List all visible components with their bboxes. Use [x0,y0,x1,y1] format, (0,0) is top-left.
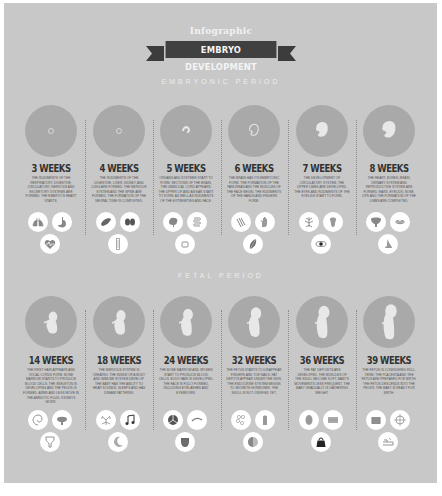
hand-icon [255,212,275,232]
embryo-circle [228,296,280,348]
week-label: 24 WEEKS [158,355,214,366]
embryo-circle [296,296,348,348]
skull-icon [243,432,263,452]
column-divider [153,120,154,235]
bladder-icon [366,212,386,232]
pancreas-icon [243,234,263,254]
weight-icon [311,432,331,452]
molecule-icon [231,410,251,430]
moon-icon [108,432,128,452]
week-label: 6 WEEKS [226,163,282,174]
intestine-icon [187,212,207,232]
heart-pulse-icon [40,234,60,254]
embryo-circle [25,105,77,157]
week-description: The fetus starts to disappear fingers an… [226,368,282,396]
ear-icon [28,410,48,430]
week-description: The rudiments of the digestive, liver, k… [91,176,147,204]
section-title-fetal: FETAL PERIOD [0,272,442,279]
lungs-tree-icon [52,410,72,430]
embryo-circle [93,105,145,157]
week-label: 18 WEEKS [91,355,147,366]
week-description: The brain has its embryonic form. The fo… [226,176,282,204]
embryo-circle [93,296,145,348]
finger-icon [255,410,275,430]
embryo-circle [25,296,77,348]
eye-icon [311,234,331,254]
fetus-icon [296,296,348,348]
eyebrow-icon [187,410,207,430]
ribbon-tail-left [146,46,164,61]
column-divider [288,310,289,430]
kidneys-icon [120,212,140,232]
bed-icon [378,432,398,452]
fetus-icon [363,296,415,348]
embryo-icon [363,105,415,157]
column-divider [85,310,86,430]
column-divider [288,120,289,235]
spine-icon [108,234,128,254]
fetus-icon [25,296,77,348]
title-ribbon: EMBRYO DEVELOPMENT [146,41,296,61]
ribbon-tail-right [278,46,296,61]
mouth-icon [175,234,195,254]
skin-icon [323,410,343,430]
embryo-icon [296,105,348,157]
column-divider [153,310,154,430]
week-description: The nervous system is created. The insid… [91,368,147,396]
pretitle: Infographic [0,26,442,36]
week-label: 8 WEEKS [361,163,417,174]
muscles-icon [231,212,251,232]
placenta-icon [366,410,386,430]
embryo-dot [48,128,54,134]
week-label: 5 WEEKS [158,163,214,174]
embryo-dot [116,128,122,134]
embryo-circle [160,296,212,348]
week-description: Organs and systems start to form. Sectio… [158,176,214,204]
spleen-icon [163,410,183,430]
page-title: EMBRYO DEVELOPMENT [166,41,277,58]
embryo-curl-icon [160,105,212,157]
embryo-icon [228,105,280,157]
embryo-circle [296,105,348,157]
week-description: The rudiments of the respiratory, digest… [23,176,79,204]
column-divider [221,120,222,235]
fetus-icon [160,296,212,348]
week-description: The heart, bones, brain, urinary system … [361,176,417,204]
target-icon [390,410,410,430]
column-divider [356,310,357,430]
week-label: 14 WEEKS [23,355,79,366]
week-description: The first hair appears and vocal cords f… [23,368,79,405]
nose-icon [378,234,398,254]
column-divider [356,120,357,235]
tooth-icon [323,212,343,232]
section-title-embryonic: EMBRYONIC PERIOD [0,78,442,85]
fetus-icon [228,296,280,348]
week-label: 4 WEEKS [91,163,147,174]
kidney-icon [299,410,319,430]
lungs-icon [28,212,48,232]
embryo-circle [160,105,212,157]
fetus-icon [93,296,145,348]
veins-icon [299,212,319,232]
week-label: 7 WEEKS [294,163,350,174]
week-label: 3 WEEKS [23,163,79,174]
week-description: The bone marrow and spleen start to prod… [158,368,214,396]
week-label: 36 WEEKS [294,355,350,366]
music-note-icon [120,410,140,430]
embryo-circle [363,296,415,348]
lips-icon [390,212,410,232]
week-label: 32 WEEKS [226,355,282,366]
week-description: The development of circulatory system, t… [294,176,350,199]
week-description: The fetus is considered full-term. The p… [361,368,417,396]
embryo-circle [363,105,415,157]
column-divider [85,120,86,235]
liver-icon [96,212,116,232]
liver-shield-icon [175,432,195,452]
nerves-icon [96,410,116,430]
week-label: 39 WEEKS [361,355,417,366]
pelvis-icon [40,432,60,452]
embryo-circle [228,105,280,157]
brain-icon [163,212,183,232]
stomach-icon [52,212,72,232]
column-divider [221,310,222,430]
